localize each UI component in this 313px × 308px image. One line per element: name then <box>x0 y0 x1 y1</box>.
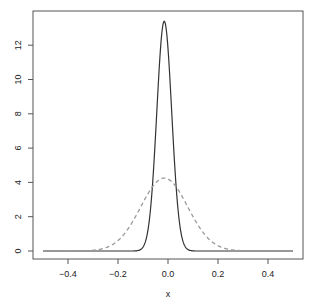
y-tick-label: 10 <box>13 74 23 84</box>
y-tick-label: 6 <box>13 146 23 151</box>
y-axis: 024681012 <box>13 40 33 253</box>
x-tick-label: 0.4 <box>262 269 275 279</box>
wide-density-curve <box>43 178 293 251</box>
x-tick-label: −0.2 <box>109 269 127 279</box>
narrow-density-curve <box>43 21 293 251</box>
y-tick-label: 4 <box>13 180 23 185</box>
y-tick-label: 2 <box>13 214 23 219</box>
y-tick-label: 0 <box>13 248 23 253</box>
density-plot: −0.4−0.20.00.20.4 024681012 x <box>0 0 313 308</box>
y-tick-label: 8 <box>13 111 23 116</box>
x-axis: −0.4−0.20.00.20.4 <box>59 259 274 279</box>
series-layer <box>43 21 293 251</box>
y-tick-label: 12 <box>13 40 23 50</box>
x-tick-label: −0.4 <box>59 269 77 279</box>
x-tick-label: 0.0 <box>162 269 175 279</box>
x-tick-label: 0.2 <box>212 269 225 279</box>
x-axis-title: x <box>166 289 171 299</box>
